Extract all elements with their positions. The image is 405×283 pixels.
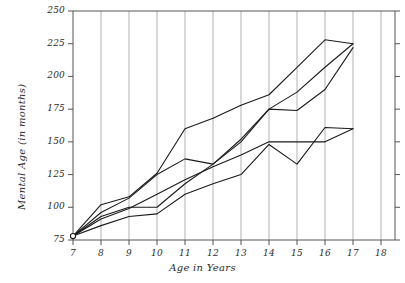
x-tick-label: 8 (89, 248, 113, 258)
x-tick-label: 12 (201, 248, 225, 258)
y-tick-label: 250 (39, 5, 65, 15)
x-tick-label: 16 (313, 248, 337, 258)
x-tick-label: 13 (229, 248, 253, 258)
y-tick-label: 200 (39, 70, 65, 80)
vertical-gridlines (101, 11, 381, 240)
x-tick-marks (73, 240, 381, 245)
x-tick-label: 17 (341, 248, 365, 258)
y-tick-label: 75 (39, 234, 65, 244)
y-tick-label: 175 (39, 103, 65, 113)
x-axis-title: Age in Years (0, 262, 405, 273)
y-tick-label: 225 (39, 38, 65, 48)
y-tick-label: 100 (39, 201, 65, 211)
mental-age-growth-chart: 75100125150175200225250 7891011121314151… (0, 0, 405, 283)
y-axis-title: Mental Age (in months) (16, 84, 27, 210)
x-tick-label: 14 (257, 248, 281, 258)
x-tick-label: 7 (61, 248, 85, 258)
y-tick-label: 150 (39, 136, 65, 146)
x-tick-label: 15 (285, 248, 309, 258)
x-tick-label: 18 (369, 248, 393, 258)
x-tick-label: 11 (173, 248, 197, 258)
x-tick-label: 10 (145, 248, 169, 258)
y-tick-label: 125 (39, 169, 65, 179)
x-tick-label: 9 (117, 248, 141, 258)
origin-circle-marker (70, 233, 75, 238)
axis-frame (73, 11, 395, 240)
